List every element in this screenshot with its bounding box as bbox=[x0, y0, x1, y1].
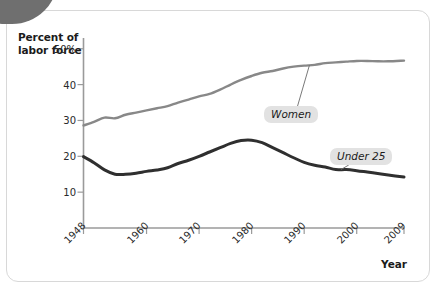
series-label-under-25: Under 25 bbox=[330, 148, 392, 165]
series-label-women: Women bbox=[264, 106, 318, 123]
y-axis-title-line1: Percent of bbox=[18, 31, 81, 44]
chart-canvas: Percent of labor force 1020304050% 19481… bbox=[0, 0, 437, 291]
y-tick-label: 30 bbox=[40, 115, 76, 126]
x-axis-title: Year bbox=[381, 258, 407, 270]
y-tick-marks bbox=[78, 49, 84, 192]
y-tick-label: 20 bbox=[40, 151, 76, 162]
leader-line bbox=[298, 65, 310, 106]
axes-group bbox=[78, 38, 405, 234]
series-line-women bbox=[84, 61, 405, 126]
y-tick-label: 40 bbox=[40, 79, 76, 90]
y-tick-label: 50% bbox=[40, 43, 76, 54]
y-tick-label: 10 bbox=[40, 187, 76, 198]
